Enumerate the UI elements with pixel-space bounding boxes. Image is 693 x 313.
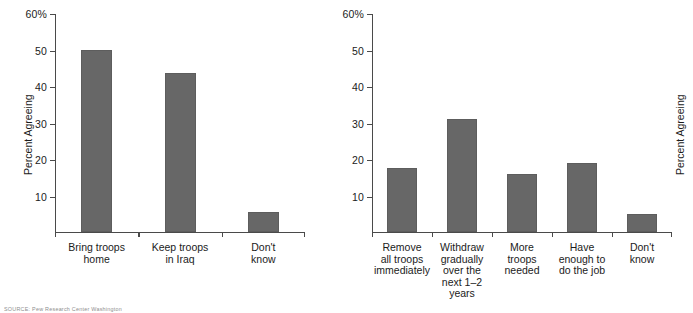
y-tick-label-left-10: 10 bbox=[35, 191, 47, 203]
bar-right-3 bbox=[567, 163, 597, 232]
bar-left-2 bbox=[248, 212, 279, 232]
y-tick-left-10 bbox=[50, 197, 55, 198]
y-tick-label-right-30: 30 bbox=[352, 118, 364, 130]
bar-right-2 bbox=[507, 174, 537, 232]
y-tick-left-30 bbox=[50, 124, 55, 125]
y-tick-label-left-50: 50 bbox=[35, 45, 47, 57]
bar-left-0 bbox=[81, 50, 112, 233]
y-tick-label-right-10: 10 bbox=[352, 191, 364, 203]
x-tick-right-0 bbox=[372, 233, 373, 237]
y-axis-label-right: Percent Agreeing bbox=[674, 94, 686, 175]
y-tick-left-40 bbox=[50, 87, 55, 88]
x-category-label-right-4: Don't know bbox=[606, 242, 678, 265]
y-tick-left-60 bbox=[50, 14, 55, 15]
y-tick-right-60 bbox=[367, 14, 372, 15]
source-note: SOURCE: Pew Research Center Washington bbox=[4, 306, 122, 313]
chart-panel-right: Percent Agreeing 102030405060%Remove all… bbox=[332, 0, 693, 313]
x-tick-right-1 bbox=[432, 233, 433, 237]
y-tick-label-left-20: 20 bbox=[35, 154, 47, 166]
chart-panel-left: Percent Agreeing 102030405060%Bring troo… bbox=[0, 0, 340, 313]
x-tick-left-end bbox=[304, 233, 305, 237]
y-tick-label-left-40: 40 bbox=[35, 81, 47, 93]
y-axis-line-right bbox=[372, 14, 373, 233]
bar-left-1 bbox=[165, 73, 196, 232]
y-tick-right-30 bbox=[367, 124, 372, 125]
y-axis-label-left: Percent Agreeing bbox=[22, 94, 34, 175]
y-tick-left-50 bbox=[50, 51, 55, 52]
y-tick-label-left-60: 60% bbox=[25, 8, 47, 20]
y-tick-left-20 bbox=[50, 160, 55, 161]
bar-right-4 bbox=[627, 214, 657, 232]
y-tick-label-left-30: 30 bbox=[35, 118, 47, 130]
y-tick-label-right-60: 60% bbox=[342, 8, 364, 20]
y-tick-label-right-50: 50 bbox=[352, 45, 364, 57]
x-tick-right-3 bbox=[552, 233, 553, 237]
y-tick-right-10 bbox=[367, 197, 372, 198]
y-tick-right-50 bbox=[367, 51, 372, 52]
x-tick-right-4 bbox=[612, 233, 613, 237]
x-category-label-left-0: Bring troops home bbox=[54, 242, 140, 265]
x-tick-left-2 bbox=[222, 233, 223, 237]
x-tick-left-0 bbox=[55, 233, 56, 237]
x-category-label-left-1: Keep troops in Iraq bbox=[137, 242, 223, 265]
y-tick-right-20 bbox=[367, 160, 372, 161]
x-tick-right-end bbox=[671, 233, 672, 237]
bar-right-1 bbox=[447, 119, 477, 232]
plot-area-right: 102030405060%Remove all troops immediate… bbox=[372, 14, 672, 233]
x-tick-right-2 bbox=[492, 233, 493, 237]
bar-chart-figure: Percent Agreeing 102030405060%Bring troo… bbox=[0, 0, 693, 313]
y-axis-line-left bbox=[55, 14, 56, 233]
x-category-label-left-2: Don't know bbox=[220, 242, 306, 265]
y-tick-label-right-40: 40 bbox=[352, 81, 364, 93]
y-tick-label-right-20: 20 bbox=[352, 154, 364, 166]
bar-right-0 bbox=[387, 168, 417, 232]
x-tick-left-1 bbox=[138, 233, 139, 237]
plot-area-left: 102030405060%Bring troops homeKeep troop… bbox=[55, 14, 305, 233]
y-tick-right-40 bbox=[367, 87, 372, 88]
